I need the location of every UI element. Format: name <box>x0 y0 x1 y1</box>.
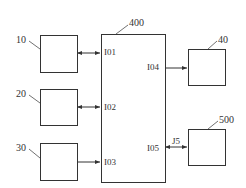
label-20: 20 <box>16 89 26 99</box>
port-I05: I05 <box>147 144 159 153</box>
block-500 <box>188 129 226 166</box>
port-I04: I04 <box>147 63 159 72</box>
label-400: 400 <box>129 18 144 28</box>
block-20 <box>40 89 78 126</box>
label-40: 40 <box>218 35 228 45</box>
label-500: 500 <box>219 115 234 125</box>
link-label-J5: J5 <box>172 137 180 146</box>
block-10 <box>40 35 78 73</box>
port-I01: I01 <box>104 48 116 57</box>
port-I02: I02 <box>104 103 116 112</box>
label-30: 30 <box>16 143 26 153</box>
port-I03: I03 <box>104 158 116 167</box>
label-10: 10 <box>16 35 26 45</box>
block-30 <box>40 143 78 181</box>
block-40 <box>188 49 226 86</box>
